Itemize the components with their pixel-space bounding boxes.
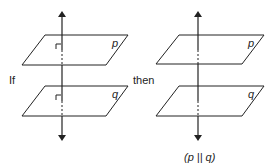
right-figure: p q then (p || q)	[133, 14, 264, 163]
diagram-canvas: p q If p q then (p || q)	[0, 0, 278, 168]
plane-label-q-left: q	[112, 88, 119, 100]
plane-label-q-right: q	[248, 88, 255, 100]
then-label: then	[133, 74, 154, 86]
right-angle-mark-p	[56, 44, 61, 49]
parallel-caption: (p || q)	[184, 151, 216, 163]
left-figure: p q If	[9, 14, 128, 138]
right-angle-mark-q	[56, 95, 61, 100]
if-label: If	[9, 74, 16, 86]
plane-label-p-left: p	[111, 37, 118, 49]
plane-label-p-right: p	[247, 37, 254, 49]
